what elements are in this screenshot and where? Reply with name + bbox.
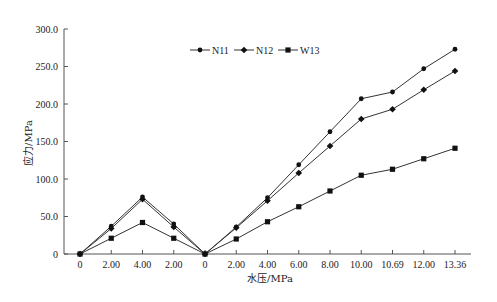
legend-item-n11: N11	[190, 45, 229, 56]
y-axis: 050.0100.0150.0200.0250.0300.0	[36, 24, 69, 260]
x-axis-title: 水压/MPa	[247, 273, 293, 284]
x-tick-label: 0	[203, 259, 208, 270]
square-marker-icon	[109, 236, 114, 241]
square-marker-icon	[140, 220, 145, 225]
x-tick-label: 13.36	[444, 259, 467, 270]
circle-marker-icon	[296, 162, 301, 167]
square-marker-icon	[327, 188, 332, 193]
x-tick-label: 2.00	[228, 259, 246, 270]
y-tick-label: 100.0	[36, 174, 59, 185]
legend-label: N11	[212, 45, 229, 56]
circle-marker-icon	[359, 96, 364, 101]
square-marker-icon	[202, 251, 207, 256]
square-marker-icon	[265, 219, 270, 224]
legend-label: W13	[300, 45, 319, 56]
y-tick-label: 150.0	[36, 136, 59, 147]
square-marker-icon	[296, 204, 301, 209]
diamond-marker-icon	[452, 68, 459, 75]
x-axis: 02.004.002.0002.004.006.008.0010.0010.69…	[64, 250, 471, 270]
square-marker-icon	[452, 146, 457, 151]
line-chart: 050.0100.0150.0200.0250.0300.0 02.004.00…	[0, 0, 497, 302]
circle-marker-icon	[453, 47, 458, 52]
y-tick-label: 300.0	[36, 24, 59, 35]
legend-label: N12	[256, 45, 273, 56]
x-tick-label: 10.69	[381, 259, 404, 270]
y-tick-label: 250.0	[36, 61, 59, 72]
x-tick-label: 2.00	[103, 259, 121, 270]
x-tick-label: 12.00	[413, 259, 436, 270]
square-marker-icon	[171, 236, 176, 241]
x-tick-label: 4.00	[259, 259, 277, 270]
circle-marker-icon	[328, 129, 333, 134]
diamond-marker-icon	[389, 106, 396, 113]
diamond-legend-icon	[241, 47, 248, 54]
circle-legend-icon	[198, 48, 203, 53]
x-tick-label: 2.00	[165, 259, 183, 270]
square-marker-icon	[390, 167, 395, 172]
x-tick-label: 10.00	[350, 259, 373, 270]
diamond-marker-icon	[420, 86, 427, 93]
legend-item-n12: N12	[234, 45, 273, 56]
square-marker-icon	[359, 173, 364, 178]
x-tick-label: 4.00	[134, 259, 152, 270]
series-n12	[77, 68, 459, 258]
x-tick-label: 6.00	[290, 259, 308, 270]
y-axis-title: 应力/MPa	[22, 120, 34, 166]
square-legend-icon	[285, 47, 290, 52]
square-marker-icon	[421, 156, 426, 161]
y-tick-label: 50.0	[41, 211, 59, 222]
legend-item-w13: W13	[278, 45, 319, 56]
series-n11	[78, 47, 458, 257]
circle-marker-icon	[390, 90, 395, 95]
x-tick-label: 8.00	[321, 259, 339, 270]
square-marker-icon	[234, 236, 239, 241]
legend: N11N12W13	[190, 45, 319, 56]
x-tick-label: 0	[78, 259, 83, 270]
circle-marker-icon	[421, 66, 426, 71]
square-marker-icon	[77, 251, 82, 256]
y-tick-label: 0	[53, 249, 58, 260]
series-layer	[77, 47, 459, 257]
y-tick-label: 200.0	[36, 99, 59, 110]
